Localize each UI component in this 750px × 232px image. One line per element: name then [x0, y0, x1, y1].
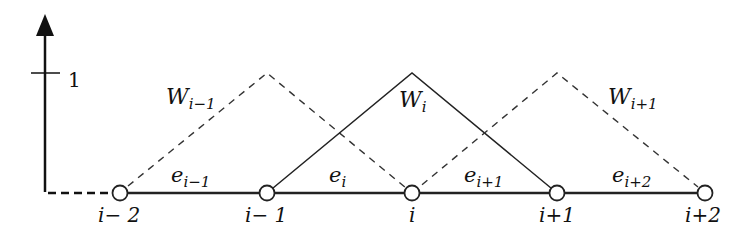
label-e-i: ei [329, 163, 346, 191]
label-e-i-plus-2: ei+2 [612, 163, 651, 191]
label-e-i-minus-1: ei−1 [171, 163, 210, 191]
node-circle [698, 186, 713, 201]
node-label-i: i [409, 203, 415, 227]
node-circle [260, 186, 275, 201]
label-w-i-minus-1: Wi−1 [166, 84, 216, 113]
node-label-i-minus-1: i− 1 [245, 203, 287, 227]
node-circle [405, 186, 420, 201]
label-w-i-plus-1: Wi+1 [608, 84, 658, 113]
node-label-i-minus-2: i− 2 [98, 203, 140, 227]
arrow-up-icon [36, 14, 54, 36]
label-e-i-plus-1: ei+1 [464, 163, 503, 191]
node-circle [113, 186, 128, 201]
tick-label-one: 1 [68, 68, 81, 92]
diagram-canvas [0, 0, 750, 232]
node-label-i-plus-2: i+2 [685, 203, 721, 227]
label-w-i: Wi [399, 87, 426, 116]
node-circle [550, 186, 565, 201]
node-label-i-plus-1: i+1 [539, 203, 575, 227]
